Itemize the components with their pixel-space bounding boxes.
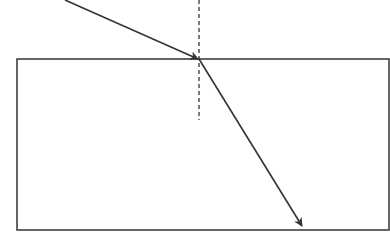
refraction-diagram (0, 0, 390, 244)
refracted-ray (199, 59, 302, 226)
incident-ray (65, 0, 198, 59)
glass-block (17, 59, 389, 230)
